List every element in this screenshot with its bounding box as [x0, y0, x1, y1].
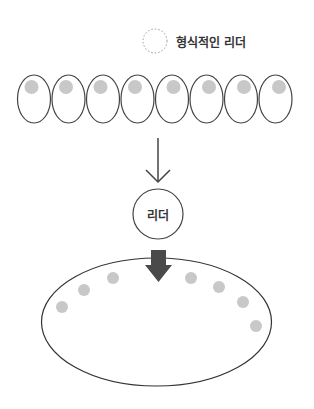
- egg-member: [87, 75, 120, 123]
- egg-member: [259, 75, 292, 123]
- member-dot: [56, 301, 68, 313]
- member-dot: [78, 284, 90, 296]
- legend-label: 형식적인 리더: [176, 33, 246, 50]
- member-dot: [107, 272, 119, 284]
- egg-member: [121, 75, 154, 123]
- top-group: [18, 75, 293, 123]
- egg-member: [18, 75, 51, 123]
- egg-member: [52, 75, 85, 123]
- member-dot: [250, 320, 262, 332]
- egg-member: [156, 75, 189, 123]
- thick-down-arrow-icon: [145, 250, 172, 282]
- egg-member: [225, 75, 258, 123]
- egg-member: [190, 75, 223, 123]
- diagram-canvas: [0, 0, 314, 409]
- member-dot: [213, 281, 225, 293]
- leader-label: 리더: [133, 206, 183, 223]
- dotted-circle-icon: [143, 29, 167, 53]
- member-dot: [237, 296, 249, 308]
- member-dot: [185, 272, 197, 284]
- thin-down-arrow-icon: [146, 138, 170, 182]
